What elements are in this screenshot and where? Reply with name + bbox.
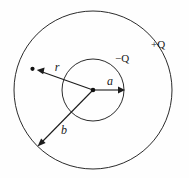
inner-radius-label: a bbox=[107, 74, 113, 88]
inner-charge-label: −Q bbox=[115, 52, 129, 64]
outer-radius-label: b bbox=[61, 123, 67, 137]
field-radius-label: r bbox=[55, 60, 60, 74]
diagram-canvas: +Q −Q a b r bbox=[0, 0, 189, 178]
outer-charge-label: +Q bbox=[151, 38, 165, 50]
radius-r-line bbox=[41, 72, 93, 91]
concentric-spheres-figure: +Q −Q a b r bbox=[0, 0, 189, 178]
radius-b-line bbox=[42, 90, 94, 143]
center-point-dot bbox=[91, 88, 96, 93]
field-point-dot bbox=[30, 67, 34, 71]
radius-r-arrowhead bbox=[37, 68, 45, 75]
